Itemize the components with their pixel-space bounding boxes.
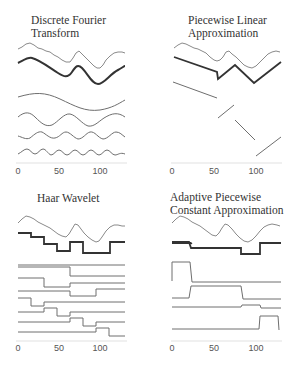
dft-tick-50: 50 <box>54 166 64 176</box>
dft-basis-2 <box>18 113 125 126</box>
haar-basis-4 <box>18 289 125 296</box>
haar-basis-2 <box>18 267 125 276</box>
pla-segment-1 <box>173 82 217 98</box>
pla-approximation <box>174 57 281 83</box>
dft-original-series <box>18 43 125 68</box>
haar-basis-3 <box>18 278 125 287</box>
dft-basis-3 <box>18 132 125 139</box>
apca-basis-4 <box>172 316 279 330</box>
apca-approximation <box>172 242 281 254</box>
pla-original-series <box>174 43 280 68</box>
pla-panel <box>171 43 282 163</box>
apca-tick-100: 100 <box>248 343 263 353</box>
apca-tick-0: 0 <box>169 343 174 353</box>
apca-title-line2: Constant Approximation <box>170 204 283 217</box>
figure-canvas <box>0 0 297 365</box>
dft-title-line2: Transform <box>31 27 106 40</box>
apca-panel <box>171 216 282 341</box>
dft-approximation <box>18 58 125 84</box>
pla-segment-4 <box>256 137 281 156</box>
dft-basis-4 <box>18 149 125 155</box>
pla-tick-0: 0 <box>169 166 174 176</box>
dft-tick-100: 100 <box>92 166 107 176</box>
haar-title: Haar Wavelet <box>37 192 99 205</box>
apca-original-series <box>172 216 280 242</box>
haar-basis-7 <box>18 318 125 326</box>
dft-title-line1: Discrete Fourier <box>31 14 106 27</box>
haar-title-line1: Haar Wavelet <box>37 192 99 205</box>
apca-basis-1 <box>172 262 281 282</box>
pla-segment-2 <box>218 105 234 118</box>
haar-tick-100: 100 <box>92 343 107 353</box>
haar-tick-50: 50 <box>54 343 64 353</box>
haar-approximation <box>18 233 125 253</box>
haar-original-series <box>18 216 125 242</box>
apca-tick-50: 50 <box>209 343 219 353</box>
pla-segment-3 <box>235 120 255 140</box>
pla-title: Piecewise Linear Approximation <box>188 14 267 40</box>
haar-basis-5 <box>18 298 125 306</box>
haar-panel <box>16 216 127 341</box>
apca-basis-2 <box>172 286 281 299</box>
pla-tick-100: 100 <box>248 166 263 176</box>
pla-tick-50: 50 <box>209 166 219 176</box>
dft-panel <box>16 43 127 163</box>
haar-basis-8 <box>18 328 125 336</box>
haar-basis-6 <box>18 308 125 316</box>
haar-tick-0: 0 <box>15 343 20 353</box>
dft-basis-1 <box>18 93 125 110</box>
apca-title: Adaptive Piecewise Constant Approximatio… <box>170 191 283 217</box>
dft-title: Discrete Fourier Transform <box>31 14 106 40</box>
apca-title-line1: Adaptive Piecewise <box>170 191 283 204</box>
apca-basis-3 <box>172 305 281 308</box>
pla-title-line2: Approximation <box>188 27 267 40</box>
pla-title-line1: Piecewise Linear <box>188 14 267 27</box>
dft-tick-0: 0 <box>15 166 20 176</box>
